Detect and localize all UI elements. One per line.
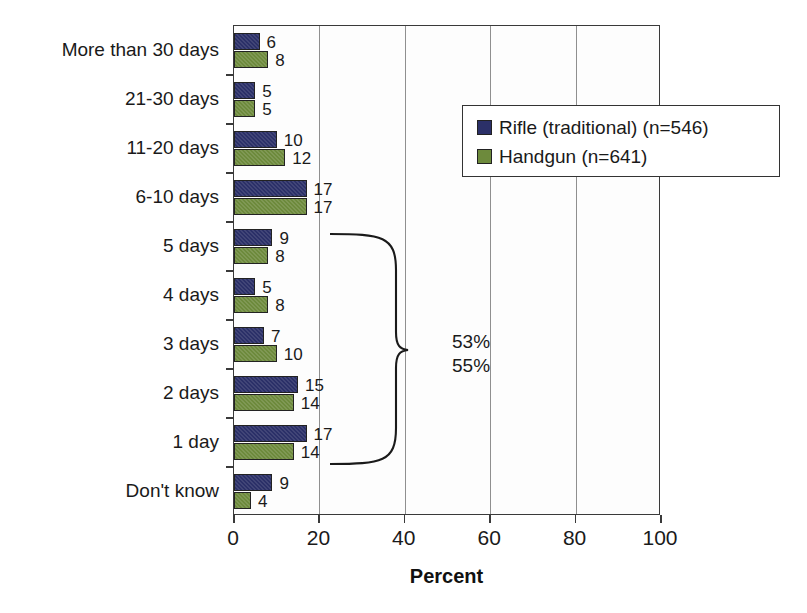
y-axis-label: 4 days [163,285,219,304]
category-row [234,418,659,467]
y-tick [226,74,234,76]
y-axis-label: 11-20 days [126,138,219,157]
bar-value-label: 10 [284,346,303,363]
bar-rifle [234,376,298,393]
bar-value-label: 17 [314,426,333,443]
bar-value-label: 9 [279,475,288,492]
bar-handgun [234,443,294,460]
bar-value-label: 8 [275,248,284,265]
bar-value-label: 14 [301,444,320,461]
x-axis-tick-label: 60 [478,527,501,548]
y-tick [226,123,234,125]
bar-value-label: 7 [271,328,280,345]
bar-value-label: 17 [314,199,333,216]
legend-swatch-rifle-icon [477,120,492,135]
bar-value-label: 9 [279,230,288,247]
bar-handgun [234,345,277,362]
bar-rifle [234,33,260,50]
y-axis-label: 1 day [173,432,219,451]
x-tick [660,515,662,523]
bar-handgun [234,149,285,166]
y-tick [226,466,234,468]
bar-value-label: 8 [275,297,284,314]
x-tick [318,515,320,523]
bar-rifle [234,425,307,442]
bar-value-label: 5 [262,101,271,118]
y-tick [226,172,234,174]
x-axis-title: Percent [233,565,660,588]
bar-rifle [234,278,255,295]
bar-rifle [234,327,264,344]
y-axis-label: 6-10 days [136,187,219,206]
bar-value-label: 5 [262,279,271,296]
x-tick [575,515,577,523]
legend-label-handgun: Handgun (n=641) [499,147,647,166]
bar-rifle [234,180,307,197]
brace-percent-handgun: 55% [452,354,490,378]
y-axis-label: 3 days [163,334,219,353]
y-tick [226,270,234,272]
x-tick [404,515,406,523]
bar-rifle [234,474,272,491]
brace-percent-labels: 53% 55% [452,330,490,378]
bar-handgun [234,247,268,264]
chart-canvas: More than 30 days21-30 days11-20 days6-1… [0,0,807,613]
bar-value-label: 4 [258,493,267,510]
bar-handgun [234,198,307,215]
legend: Rifle (traditional) (n=546) Handgun (n=6… [462,105,780,177]
x-axis-tick-label: 100 [642,527,677,548]
plot-area [233,25,660,515]
x-axis-tick-label: 40 [392,527,415,548]
brace-percent-rifle: 53% [452,330,490,354]
y-axis-label: More than 30 days [62,40,219,59]
bar-value-label: 8 [275,52,284,69]
bar-handgun [234,296,268,313]
legend-swatch-handgun-icon [477,149,492,164]
bar-handgun [234,100,255,117]
bar-value-label: 17 [314,181,333,198]
y-tick [226,319,234,321]
x-tick [233,515,235,523]
bar-handgun [234,51,268,68]
category-row [234,369,659,418]
category-row [234,173,659,222]
bar-handgun [234,492,251,509]
category-row [234,222,659,271]
x-axis-tick-label: 0 [227,527,239,548]
legend-entry-rifle[interactable]: Rifle (traditional) (n=546) [477,113,779,142]
bar-value-label: 15 [305,377,324,394]
bar-value-label: 12 [292,150,311,167]
bar-value-label: 6 [267,34,276,51]
y-axis-label: 5 days [163,236,219,255]
y-axis-label: Don't know [126,481,219,500]
bar-rifle [234,229,272,246]
bar-value-label: 10 [284,132,303,149]
x-axis-tick-label: 20 [307,527,330,548]
x-tick [489,515,491,523]
category-row [234,26,659,75]
y-axis-label: 2 days [163,383,219,402]
bar-rifle [234,82,255,99]
bar-rifle [234,131,277,148]
legend-entry-handgun[interactable]: Handgun (n=641) [477,142,779,171]
bar-value-label: 5 [262,83,271,100]
category-row [234,271,659,320]
bar-handgun [234,394,294,411]
y-tick [226,221,234,223]
x-axis-tick-label: 80 [563,527,586,548]
y-tick [226,417,234,419]
bar-value-label: 14 [301,395,320,412]
legend-label-rifle: Rifle (traditional) (n=546) [499,118,709,137]
y-axis-label: 21-30 days [125,89,219,108]
category-row [234,467,659,516]
y-tick [226,368,234,370]
